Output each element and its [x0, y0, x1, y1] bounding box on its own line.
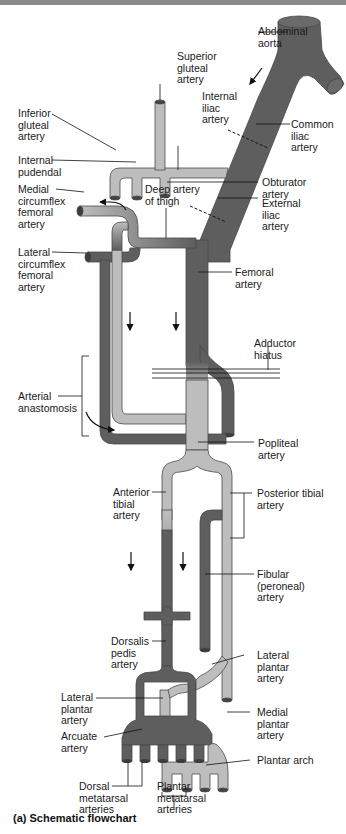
label-internal-iliac-artery: Internal iliac artery: [202, 91, 237, 126]
label-adductor-hiatus: Adductor hiatus: [254, 338, 296, 361]
label-fibular-artery: Fibular (peroneal) artery: [257, 569, 305, 604]
label-internal-pudendal: Internal pudendal: [18, 155, 61, 178]
label-deep-artery-of-thigh: Deep artery of thigh: [145, 184, 200, 207]
label-common-iliac-artery: Common iliac artery: [291, 119, 334, 154]
figure-caption: (a) Schematic flowchart: [13, 812, 136, 824]
label-inferior-gluteal-artery: Inferior gluteal artery: [18, 108, 51, 143]
label-dorsal-metatarsal-arteries: Dorsal metatarsal arteries: [79, 781, 128, 816]
label-dorsalis-pedis-artery: Dorsalis pedis artery: [111, 636, 149, 671]
popliteal-artery: [162, 380, 232, 702]
label-abdominal-aorta: Abdominal aorta: [258, 26, 308, 49]
label-lateral-plantar-artery-right: Lateral plantar artery: [257, 650, 289, 685]
label-external-iliac-artery: External iliac artery: [262, 198, 301, 233]
label-posterior-tibial-artery: Posterior tibial artery: [257, 488, 324, 511]
label-superior-gluteal-artery: Superior gluteal artery: [177, 51, 217, 86]
label-medial-circumflex-femoral-artery: Medial circumflex femoral artery: [18, 184, 65, 230]
label-arterial-anastomosis: Arterial anastomosis: [18, 391, 77, 414]
label-femoral-artery: Femoral artery: [235, 267, 274, 290]
anterior-tibial-artery: [144, 510, 190, 666]
label-plantar-metatarsal-arteries: Plantar metatarsal arteries: [157, 781, 206, 816]
label-arcuate-artery: Arcuate artery: [61, 731, 97, 754]
label-medial-plantar-artery: Medial plantar artery: [257, 707, 289, 742]
label-lateral-plantar-artery-left: Lateral plantar artery: [61, 692, 93, 727]
label-lateral-circumflex-femoral-artery: Lateral circumflex femoral artery: [18, 247, 65, 293]
label-popliteal-artery: Popliteal artery: [258, 438, 298, 461]
fibular-artery: [200, 510, 222, 652]
label-plantar-arch: Plantar arch: [257, 755, 314, 767]
label-anterior-tibial-artery: Anterior tibial artery: [113, 487, 150, 522]
